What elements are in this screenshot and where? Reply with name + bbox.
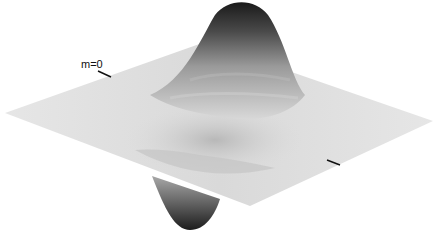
- mode-label: m=0: [81, 58, 103, 70]
- surface-plot: [0, 0, 438, 236]
- axis-tick-left: [98, 71, 111, 77]
